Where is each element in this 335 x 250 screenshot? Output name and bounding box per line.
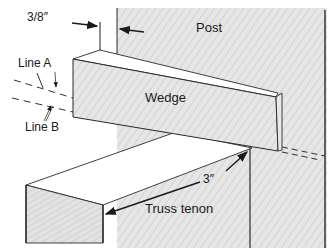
- label-post: Post: [196, 21, 222, 34]
- label-wedge: Wedge: [145, 91, 186, 104]
- label-truss-tenon: Truss tenon: [145, 202, 213, 215]
- reference-lines-left: [12, 72, 73, 121]
- label-line-b: Line B: [25, 121, 59, 133]
- label-line-a: Line A: [18, 57, 51, 69]
- dimension-label-tenon-length: 3″: [203, 173, 214, 185]
- diagram-canvas: 3/8″ Post Wedge Line A Line B 3″ Truss t…: [0, 0, 335, 250]
- dimension-label-wedge-offset: 3/8″: [27, 11, 48, 23]
